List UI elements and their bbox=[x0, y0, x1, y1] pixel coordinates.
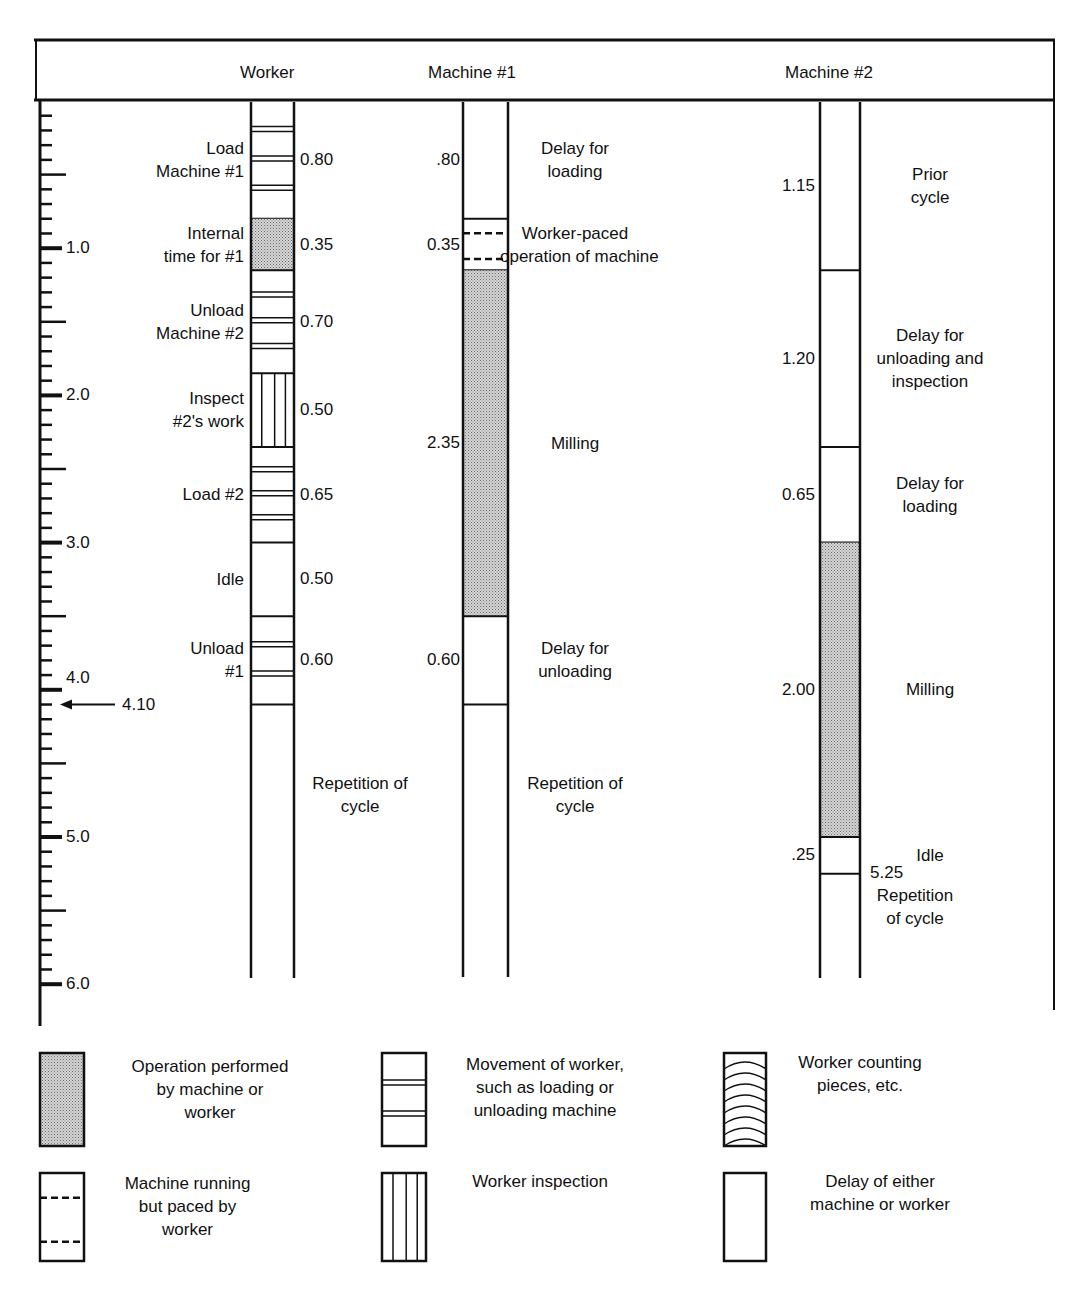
segment-duration: 1.15 bbox=[755, 174, 815, 197]
machine1-repetition-label: Repetition of cycle bbox=[510, 772, 640, 818]
segment-label: Delay for loading bbox=[500, 137, 650, 183]
segment-label: Unload Machine #2 bbox=[114, 299, 244, 345]
worker-column bbox=[251, 102, 294, 978]
worker-segment-operation bbox=[251, 219, 294, 271]
segment-duration: 0.65 bbox=[300, 483, 333, 506]
segment-label: Inspect #2's work bbox=[114, 387, 244, 433]
worker-machine-chart: Worker Machine #1 Machine #2 1.02.03.04.… bbox=[0, 0, 1084, 1293]
segment-duration: 0.60 bbox=[400, 648, 460, 671]
segment-duration: 0.80 bbox=[300, 148, 333, 171]
legend-label-inspection: Worker inspection bbox=[455, 1170, 625, 1193]
axis-tick-label: 3.0 bbox=[66, 531, 90, 554]
segment-duration: 2.00 bbox=[755, 678, 815, 701]
machine2-column bbox=[820, 102, 860, 978]
worker-segment-movement bbox=[251, 292, 294, 373]
legend-label-movement: Movement of worker, such as loading or u… bbox=[445, 1053, 645, 1122]
segment-label: Delay for loading bbox=[860, 472, 1000, 518]
segment-label: Prior cycle bbox=[860, 163, 1000, 209]
column-header-worker: Worker bbox=[240, 63, 294, 83]
segment-label: Load #2 bbox=[114, 483, 244, 506]
segment-duration: 2.35 bbox=[400, 431, 460, 454]
machine2-end-time: 5.25 bbox=[870, 861, 903, 884]
segment-label: Milling bbox=[500, 432, 650, 455]
segment-label: Worker-paced operation of machine bbox=[500, 222, 650, 268]
worker-segment-movement bbox=[251, 467, 294, 543]
cycle-time-label: 4.10 bbox=[122, 693, 155, 716]
segment-duration: 0.65 bbox=[755, 483, 815, 506]
segment-label: Delay for unloading bbox=[500, 637, 650, 683]
axis-tick-label: 6.0 bbox=[66, 972, 90, 995]
legend-label-paced: Machine running but paced by worker bbox=[100, 1172, 275, 1241]
legend-symbol-paced-icon bbox=[40, 1173, 84, 1261]
axis-tick-label: 2.0 bbox=[66, 383, 90, 406]
segment-duration: 0.60 bbox=[300, 648, 333, 671]
segment-label: Milling bbox=[860, 678, 1000, 701]
legend-label-counting: Worker counting pieces, etc. bbox=[790, 1051, 930, 1097]
worker-segment-movement bbox=[251, 642, 294, 705]
segment-duration: .80 bbox=[400, 148, 460, 171]
segment-duration: 0.35 bbox=[300, 233, 333, 256]
worker-segment-inspection bbox=[251, 373, 294, 447]
legend-symbol-inspection-icon bbox=[382, 1173, 426, 1261]
legend-symbol-counting-icon bbox=[724, 1053, 766, 1146]
segment-duration: 1.20 bbox=[755, 347, 815, 370]
column-header-machine1: Machine #1 bbox=[428, 63, 516, 83]
segment-label: Delay for unloading and inspection bbox=[860, 324, 1000, 393]
legend-label-operation: Operation performed by machine or worker bbox=[110, 1055, 310, 1124]
segment-label: Internal time for #1 bbox=[114, 222, 244, 268]
legend-symbol-delay-icon bbox=[724, 1173, 766, 1261]
legend-symbol-movement-icon bbox=[382, 1053, 426, 1146]
machine2-repetition-label: Repetition of cycle bbox=[865, 884, 965, 930]
axis-tick-label: 4.0 bbox=[66, 666, 90, 689]
machine2-segment-operation bbox=[820, 543, 860, 837]
segment-duration: .25 bbox=[755, 843, 815, 866]
segment-duration: 0.35 bbox=[400, 233, 460, 256]
segment-label: Idle bbox=[114, 568, 244, 591]
segment-duration: 0.50 bbox=[300, 567, 333, 590]
worker-repetition-label: Repetition of cycle bbox=[295, 772, 425, 818]
segment-duration: 0.50 bbox=[300, 398, 333, 421]
segment-label: Load Machine #1 bbox=[114, 137, 244, 183]
column-header-machine2: Machine #2 bbox=[785, 63, 873, 83]
worker-segment-movement bbox=[251, 126, 294, 218]
legend-symbol-operation-icon bbox=[40, 1053, 84, 1146]
arrow-head-icon bbox=[60, 700, 72, 710]
segment-label: Unload #1 bbox=[114, 637, 244, 683]
legend-label-delay: Delay of either machine or worker bbox=[790, 1170, 970, 1216]
axis-tick-label: 1.0 bbox=[66, 236, 90, 259]
segment-duration: 0.70 bbox=[300, 310, 333, 333]
axis-tick-label: 5.0 bbox=[66, 825, 90, 848]
